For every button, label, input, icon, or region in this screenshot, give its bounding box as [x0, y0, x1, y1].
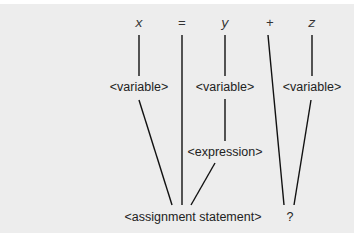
node-assignment-statement: <assignment statement>: [125, 210, 262, 224]
token-z: z: [308, 16, 316, 31]
token-equals: =: [178, 16, 186, 31]
node-unknown: ?: [287, 210, 294, 224]
edge-expr-to-assign: [191, 163, 215, 205]
node-expression: <expression>: [187, 145, 262, 159]
tokens: x = y + z: [134, 16, 316, 31]
node-variable-x: <variable>: [110, 80, 168, 94]
edges: [139, 35, 312, 205]
edge-var-x-to-assign: [139, 100, 172, 205]
token-x: x: [134, 16, 143, 31]
node-variable-z: <variable>: [283, 80, 341, 94]
token-plus: +: [266, 16, 274, 31]
edge-var-z-to-unknown: [294, 100, 311, 205]
token-y: y: [220, 16, 230, 31]
edge-tok-plus-to-unknown: [268, 35, 284, 205]
node-variable-y: <variable>: [196, 80, 254, 94]
parse-tree-diagram: x = y + z <variable> <variable> <variabl…: [0, 0, 354, 240]
